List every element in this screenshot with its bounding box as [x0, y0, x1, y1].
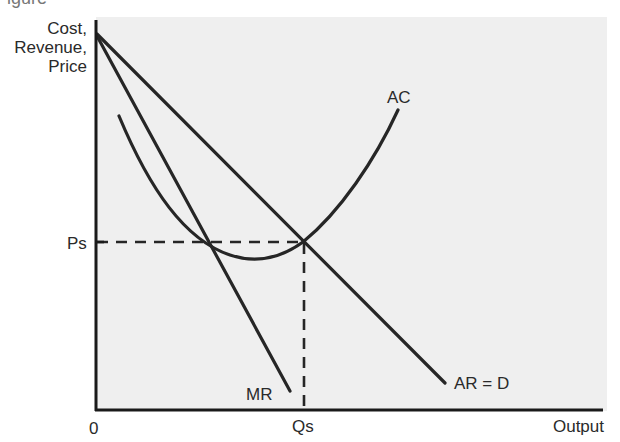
cost-revenue-chart: Cost, Revenue, Price AC MR AR = D Ps Qs …: [0, 0, 620, 442]
ar-demand-label: AR = D: [454, 374, 509, 393]
origin-label: 0: [89, 419, 98, 438]
y-axis-label-line-1: Cost,: [47, 19, 87, 38]
x-axis-label: Output: [553, 417, 604, 436]
ac-label: AC: [387, 88, 411, 107]
mr-label: MR: [246, 385, 272, 404]
y-axis-label-line-3: Price: [48, 57, 87, 76]
ps-tick-label: Ps: [67, 234, 87, 253]
y-axis-label-line-2: Revenue,: [14, 38, 87, 57]
qs-tick-label: Qs: [292, 417, 314, 436]
